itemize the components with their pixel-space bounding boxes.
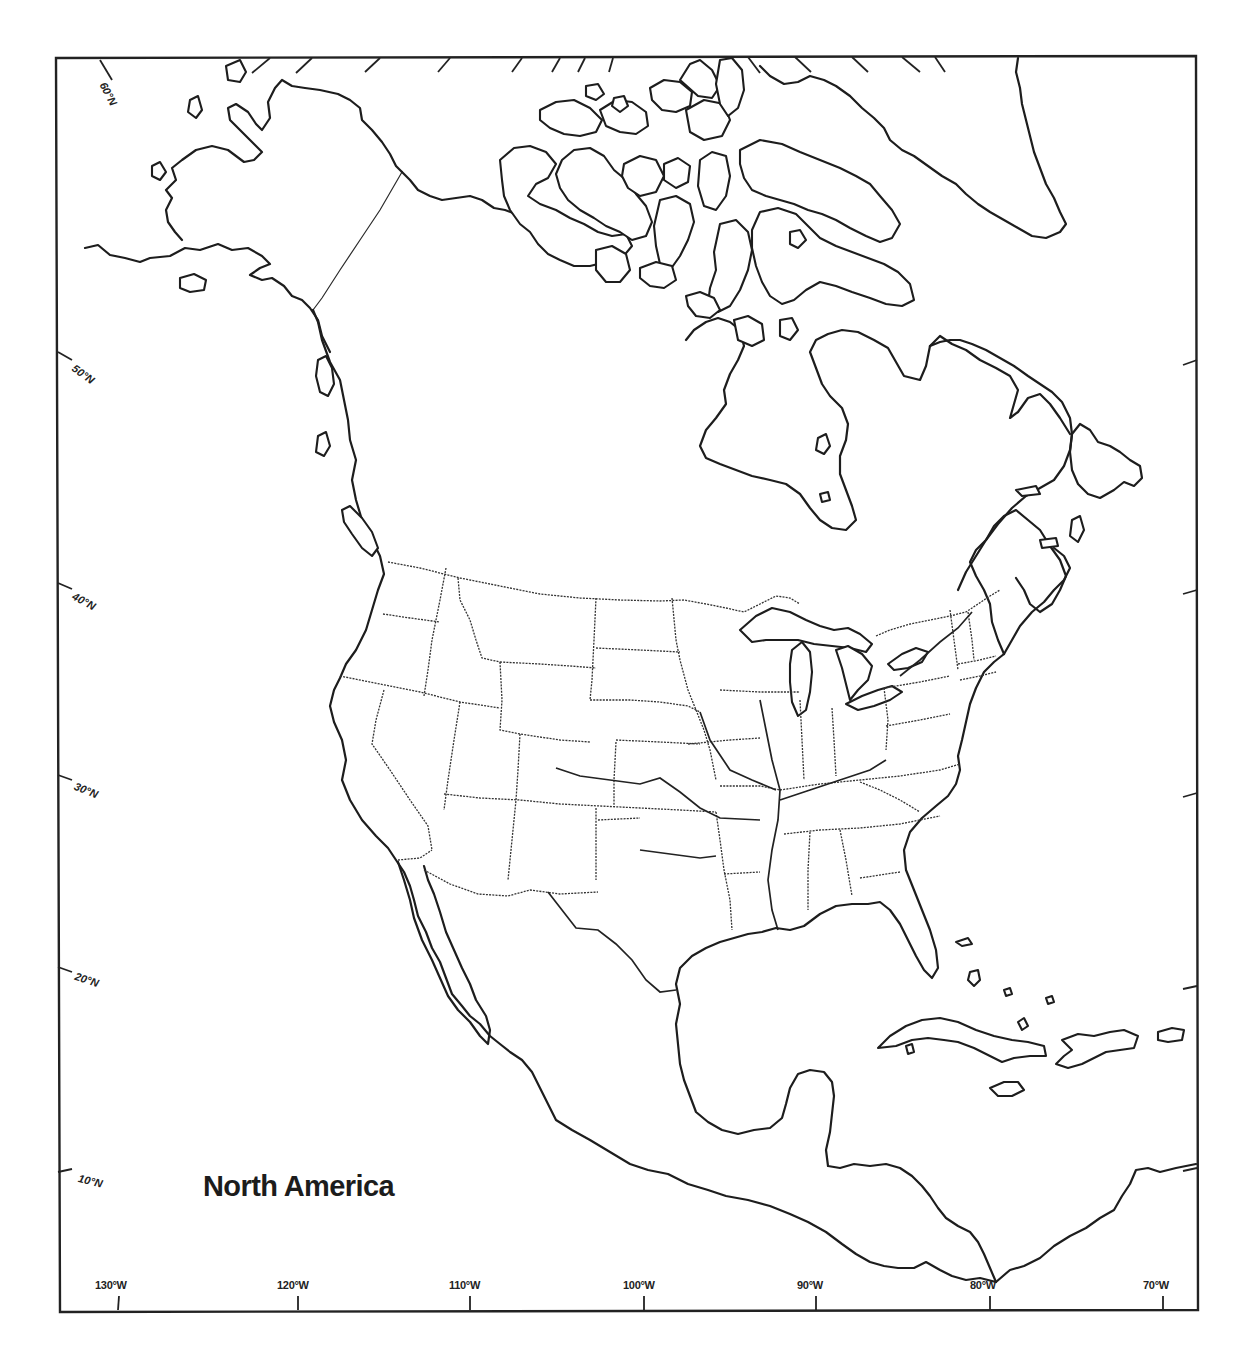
mississippi-river xyxy=(760,700,780,930)
longitude-label-100w: 100°W xyxy=(623,1279,655,1291)
arctic-archipelago xyxy=(152,58,914,346)
puerto-rico xyxy=(1158,1028,1184,1042)
central-america-caribbean-coast xyxy=(676,654,1004,1282)
longitude-label-130w: 130°W xyxy=(95,1279,127,1291)
us-state-borders xyxy=(340,568,996,930)
longitude-label-90w: 90°W xyxy=(797,1279,823,1291)
us-canada-border-east xyxy=(876,590,1000,636)
hispaniola xyxy=(1056,1030,1138,1068)
us-canada-border xyxy=(388,562,800,612)
caribbean-islands xyxy=(878,938,1184,1096)
isle-of-youth xyxy=(906,1044,914,1054)
small-lakes xyxy=(816,434,1084,548)
longitude-label-110w: 110°W xyxy=(449,1279,480,1291)
northeast-coastline xyxy=(970,510,1066,654)
map-title: North America xyxy=(203,1170,394,1203)
labrador-coast xyxy=(930,340,1072,590)
alaska-north-coast xyxy=(402,172,516,214)
alaska-coastline xyxy=(85,244,330,352)
rivers xyxy=(548,612,972,992)
pacific-coastline xyxy=(313,310,996,1282)
gulf-atlantic-coastline xyxy=(996,1164,1196,1282)
bottom-graticule-ticks xyxy=(118,1296,1163,1310)
greenland-coastline xyxy=(760,58,1066,238)
newfoundland xyxy=(1070,424,1142,498)
alaska-west-coast xyxy=(166,80,402,240)
rio-grande xyxy=(548,892,676,992)
hudson-bay xyxy=(686,318,930,530)
map-canvas xyxy=(0,0,1243,1359)
ungava-peninsula xyxy=(930,336,1070,434)
st-lawrence xyxy=(900,612,972,676)
north-america-outline-map: 60°N 50°N 40°N 30°N 20°N 10°N 130°W 120°… xyxy=(0,0,1243,1359)
longitude-label-120w: 120°W xyxy=(277,1279,309,1291)
alaska-canada-border xyxy=(313,172,402,310)
great-lakes xyxy=(740,608,928,716)
ohio-river xyxy=(780,760,886,800)
longitude-label-70w: 70°W xyxy=(1143,1279,1169,1291)
longitude-label-80w: 80°W xyxy=(970,1279,996,1291)
jamaica xyxy=(990,1082,1024,1096)
red-river xyxy=(640,850,716,858)
nova-scotia xyxy=(1004,548,1070,654)
arkansas-river xyxy=(556,768,760,820)
bc-coastal-islands xyxy=(316,356,378,556)
right-graticule-ticks xyxy=(1183,360,1197,1171)
